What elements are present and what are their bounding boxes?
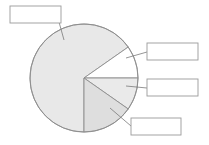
pie-chart-figure — [0, 0, 209, 145]
callout-box-bottom-right[interactable] — [131, 118, 181, 135]
callout-box-top-left[interactable] — [10, 6, 61, 23]
callout-top-left[interactable] — [10, 6, 61, 23]
callout-right-lower[interactable] — [147, 79, 198, 96]
callout-bottom-right[interactable] — [131, 118, 181, 135]
callout-right-upper[interactable] — [147, 43, 198, 60]
figure-canvas — [0, 0, 209, 145]
callout-box-right-lower[interactable] — [147, 79, 198, 96]
callout-box-right-upper[interactable] — [147, 43, 198, 60]
pie-slice-group — [30, 24, 138, 132]
